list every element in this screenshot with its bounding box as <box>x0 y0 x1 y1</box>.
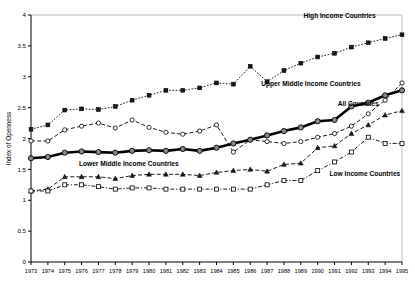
series-annotation-label: Upper Middle Income Countries <box>261 80 361 88</box>
x-axis-tick-label: 1980 <box>143 268 155 274</box>
x-axis-tick-label: 1995 <box>396 268 408 274</box>
x-axis-tick-label: 1978 <box>109 268 121 274</box>
data-point-marker <box>298 125 303 130</box>
data-point-marker <box>265 139 269 143</box>
data-point-marker <box>299 139 303 143</box>
data-point-marker <box>62 150 67 155</box>
x-axis-tick-label: 1988 <box>278 268 290 274</box>
y-axis-tick-label: 1.5 <box>17 166 26 173</box>
data-point-marker <box>400 81 404 85</box>
data-point-marker <box>349 124 353 128</box>
data-point-marker <box>214 170 219 174</box>
data-point-marker <box>316 55 320 59</box>
data-point-marker <box>46 139 50 143</box>
y-axis-tick-label: 0.5 <box>17 227 26 234</box>
x-axis-tick-label: 1987 <box>261 268 273 274</box>
data-point-marker <box>164 130 168 134</box>
y-axis-tick-label: 1 <box>23 196 27 203</box>
x-axis-tick-label: 1990 <box>311 268 323 274</box>
data-point-marker <box>349 131 354 135</box>
x-axis-tick-label: 1991 <box>328 268 340 274</box>
data-point-marker <box>63 108 67 112</box>
x-axis-tick-label: 1994 <box>379 268 391 274</box>
data-point-marker <box>63 128 67 132</box>
data-point-marker <box>113 187 117 191</box>
data-point-marker <box>231 187 235 191</box>
data-point-marker <box>79 124 83 128</box>
data-point-marker <box>181 88 185 92</box>
x-axis-tick-label: 1973 <box>25 268 37 274</box>
data-point-marker <box>333 160 337 164</box>
x-axis-tick-label: 1984 <box>210 268 222 274</box>
series-annotation-label: All Countries <box>338 100 379 107</box>
data-point-marker <box>383 93 388 98</box>
data-point-marker <box>299 61 303 65</box>
data-point-marker <box>46 123 50 127</box>
x-axis-tick-label: 1977 <box>92 268 104 274</box>
data-point-marker <box>282 141 286 145</box>
data-point-marker <box>350 45 354 49</box>
x-axis-tick-label: 1985 <box>227 268 239 274</box>
data-point-marker <box>383 113 388 117</box>
data-point-marker <box>299 178 303 182</box>
data-point-marker <box>130 186 134 190</box>
data-point-marker <box>248 64 252 68</box>
data-point-marker <box>383 37 387 41</box>
x-axis-tick-label: 1989 <box>295 268 307 274</box>
data-point-marker <box>316 135 320 139</box>
series-line <box>31 83 402 152</box>
x-axis-tick-label: 1976 <box>75 268 87 274</box>
data-point-marker <box>349 150 353 154</box>
y-axis-title: Index of Openness <box>5 112 13 166</box>
data-point-marker <box>198 86 202 90</box>
data-point-marker <box>214 123 218 127</box>
x-axis-tick-label: 1981 <box>160 268 172 274</box>
data-point-marker <box>164 88 168 92</box>
data-point-marker <box>282 178 286 182</box>
x-axis-tick-label: 1986 <box>244 268 256 274</box>
data-point-marker <box>400 33 404 37</box>
data-point-marker <box>332 143 337 147</box>
data-point-marker <box>29 127 33 131</box>
data-point-marker <box>46 189 50 193</box>
data-point-marker <box>80 183 84 187</box>
x-axis-tick-label: 1992 <box>345 268 357 274</box>
x-axis-tick-label: 1975 <box>59 268 71 274</box>
index-of-openness-line-chart: 00.511.522.533.54Index of Openness197319… <box>0 0 415 292</box>
data-point-marker <box>248 137 253 142</box>
data-point-marker <box>97 108 101 112</box>
y-axis-tick-label: 2 <box>23 135 27 142</box>
data-point-marker <box>332 131 336 135</box>
data-point-marker <box>45 154 50 159</box>
series-annotation-label: High Income Countries <box>304 12 377 20</box>
data-point-marker <box>366 41 370 45</box>
data-point-marker <box>29 139 33 143</box>
data-point-marker <box>80 107 84 111</box>
data-point-marker <box>197 148 202 153</box>
data-point-marker <box>96 149 101 154</box>
y-axis-tick-label: 3 <box>23 73 27 80</box>
data-point-marker <box>147 125 151 129</box>
data-point-marker <box>147 93 151 97</box>
y-axis-tick-label: 4 <box>23 11 27 18</box>
chart-container: 00.511.522.533.54Index of Openness197319… <box>0 0 415 292</box>
data-point-marker <box>265 183 269 187</box>
data-point-marker <box>96 121 100 125</box>
data-point-marker <box>113 126 117 130</box>
data-point-marker <box>333 51 337 55</box>
data-point-marker <box>332 117 337 122</box>
data-point-marker <box>282 69 286 73</box>
data-point-marker <box>231 168 236 172</box>
data-point-marker <box>164 187 168 191</box>
data-point-marker <box>163 148 168 153</box>
data-point-marker <box>79 149 84 154</box>
x-axis-tick-label: 1983 <box>193 268 205 274</box>
data-point-marker <box>248 167 253 171</box>
data-point-marker <box>130 98 134 102</box>
y-axis-tick-label: 2.5 <box>17 104 26 111</box>
data-point-marker <box>231 141 236 146</box>
data-point-marker <box>113 150 118 155</box>
data-point-marker <box>130 118 134 122</box>
data-point-marker <box>214 145 219 150</box>
x-axis-tick-label: 1993 <box>362 268 374 274</box>
